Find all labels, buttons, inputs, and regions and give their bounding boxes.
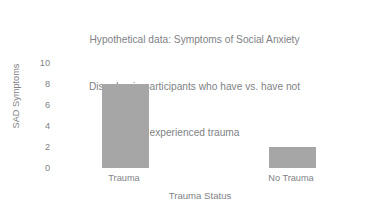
y-tick-label: 6	[24, 101, 50, 110]
x-tick-label-trauma: Trauma	[77, 174, 171, 183]
y-axis-tick-labels: 10 8 6 4 2 0	[22, 0, 50, 214]
x-tick-label-no-trauma: No Trauma	[244, 174, 338, 183]
x-axis-title: Trauma Status	[55, 190, 345, 201]
plot-area	[55, 63, 385, 168]
bar-trauma	[102, 84, 149, 168]
bar-chart-figure: Hypothetical data: Symptoms of Social An…	[0, 0, 389, 214]
y-tick-label: 4	[24, 122, 50, 131]
bar-no-trauma	[269, 147, 316, 168]
y-tick-label: 2	[24, 143, 50, 152]
y-tick-label: 0	[24, 164, 50, 173]
chart-title-line-1: Hypothetical data: Symptoms of Social An…	[0, 32, 389, 48]
y-tick-label: 10	[24, 59, 50, 68]
y-tick-label: 8	[24, 80, 50, 89]
y-axis-title: SAD Symptoms	[11, 48, 21, 144]
